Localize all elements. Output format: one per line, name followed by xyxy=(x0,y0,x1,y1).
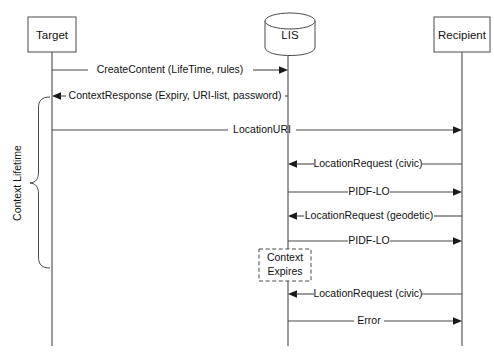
note-context-expires[interactable]: Context Expires xyxy=(259,249,311,281)
message-location-request-civic-1[interactable]: LocationRequest (civic) xyxy=(288,157,462,169)
message-location-request-geodetic[interactable]: LocationRequest (geodetic) xyxy=(288,209,462,221)
sequence-diagram: Target LIS Recipient CreateContent (Life… xyxy=(0,0,494,356)
message-create-content[interactable]: CreateContent (LifeTime, rules) xyxy=(52,63,288,75)
message-pidf-lo-2[interactable]: PIDF-LO xyxy=(288,234,462,246)
brace-path xyxy=(30,97,50,268)
lis-cylinder-top xyxy=(265,13,315,29)
brace-context-lifetime: Context Lifetime xyxy=(11,97,50,268)
message-location-request-civic-2[interactable]: LocationRequest (civic) xyxy=(288,287,462,299)
message-label: Error xyxy=(357,314,381,326)
participant-lis[interactable]: LIS xyxy=(265,13,315,56)
message-pidf-lo-1[interactable]: PIDF-LO xyxy=(288,185,462,197)
participant-recipient[interactable]: Recipient xyxy=(434,17,490,52)
arrow-head-right xyxy=(279,66,288,73)
target-label: Target xyxy=(36,29,69,41)
arrow-head-right xyxy=(453,237,462,244)
message-label: ContextResponse (Expiry, URI-list, passw… xyxy=(69,89,282,101)
message-label: PIDF-LO xyxy=(348,185,389,197)
arrow-head-right xyxy=(453,317,462,324)
participant-target[interactable]: Target xyxy=(28,17,76,52)
message-label: LocationURI xyxy=(233,123,291,135)
message-label: LocationRequest (civic) xyxy=(313,287,422,299)
arrow-head-left xyxy=(288,212,297,219)
message-label: LocationRequest (civic) xyxy=(313,157,422,169)
lis-label: LIS xyxy=(281,29,299,41)
arrow-head-left xyxy=(288,290,297,297)
message-error[interactable]: Error xyxy=(288,314,462,326)
recipient-label: Recipient xyxy=(438,29,487,41)
arrow-head-right xyxy=(453,126,462,133)
diagram-canvas: Target LIS Recipient CreateContent (Life… xyxy=(0,0,494,356)
arrow-head-left xyxy=(288,160,297,167)
arrow-head-right xyxy=(453,188,462,195)
note-line-1: Context xyxy=(267,251,303,263)
message-label: PIDF-LO xyxy=(348,234,389,246)
message-context-response[interactable]: ContextResponse (Expiry, URI-list, passw… xyxy=(52,89,288,101)
message-label: CreateContent (LifeTime, rules) xyxy=(97,63,244,75)
message-location-uri[interactable]: LocationURI xyxy=(52,123,462,135)
brace-label: Context Lifetime xyxy=(11,145,23,221)
note-line-2: Expires xyxy=(267,265,302,277)
arrow-head-left xyxy=(52,92,61,99)
message-label: LocationRequest (geodetic) xyxy=(305,209,433,221)
